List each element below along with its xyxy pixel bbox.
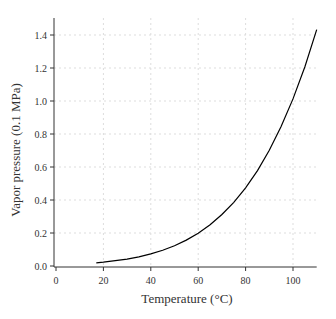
y-tick-label: 0.8	[35, 129, 48, 140]
y-tick-label: 0.4	[35, 195, 48, 206]
x-tick-label: 0	[54, 275, 59, 286]
y-tick-label: 1.4	[35, 30, 48, 41]
x-tick-label: 20	[98, 275, 108, 286]
x-tick-label: 60	[193, 275, 203, 286]
x-tick-label: 40	[146, 275, 156, 286]
y-axis-label: Vapor pressure (0.1 MPa)	[8, 83, 23, 217]
y-tick-label: 0.2	[35, 228, 48, 239]
x-axis-label: Temperature (°C)	[141, 291, 232, 306]
x-tick-label: 80	[241, 275, 251, 286]
y-tick-label: 1.0	[35, 96, 48, 107]
data-line	[96, 30, 316, 263]
y-tick-label: 0.0	[35, 261, 48, 272]
x-tick-label: 100	[286, 275, 301, 286]
grid-lines	[54, 18, 317, 267]
y-tick-label: 0.6	[35, 162, 48, 173]
y-tick-label: 1.2	[35, 63, 48, 74]
vapor-pressure-chart: 0204060801000.00.20.40.60.81.01.21.4 Tem…	[0, 0, 336, 319]
